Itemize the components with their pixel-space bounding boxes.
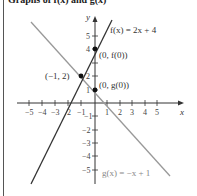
x-tick-label: 4 (143, 108, 147, 117)
g-line (31, 22, 170, 176)
point-intersection-label: (−1, 2) (45, 71, 70, 81)
y-tick-label: −4 (82, 152, 91, 161)
f-label: f(x) = 2x + 4 (110, 25, 157, 35)
f-line (31, 20, 112, 184)
y-tick-label: 5 (86, 32, 90, 41)
point-g0 (93, 88, 98, 93)
x-tick-label: −5 (25, 108, 34, 117)
y-axis-label: y (85, 12, 90, 22)
x-tick-label: 5 (155, 108, 159, 117)
x-tick-label: 1 (105, 108, 109, 117)
point-f0 (93, 47, 98, 52)
point-f0-label: (0, f(0)) (99, 50, 128, 60)
y-tick-label: −3 (82, 139, 91, 148)
x-axis: −5 −4 −3 2 −1 1 2 3 4 5 x (17, 100, 184, 117)
x-tick-label: −3 (51, 108, 60, 117)
y-tick-label: −1 (84, 112, 93, 121)
y-axis: 5 4 2 1 −1 −2 −3 −4 −5 y (82, 12, 98, 184)
x-tick-label: 2 (118, 108, 122, 117)
x-tick-label: −4 (38, 108, 47, 117)
plot-area: −5 −4 −3 2 −1 1 2 3 4 5 x 5 4 2 1 −1 (0, 0, 197, 196)
point-g0-label: (0, g(0)) (99, 80, 129, 90)
x-axis-label: x (179, 107, 184, 117)
y-tick-label: −5 (82, 166, 91, 175)
x-tick-label: 3 (130, 108, 134, 117)
y-tick-label: −2 (82, 126, 91, 135)
point-intersection (79, 74, 84, 79)
y-tick-label: 2 (86, 72, 90, 81)
g-label: g(x) = −x + 1 (102, 168, 150, 178)
y-tick-label: 4 (86, 45, 90, 54)
